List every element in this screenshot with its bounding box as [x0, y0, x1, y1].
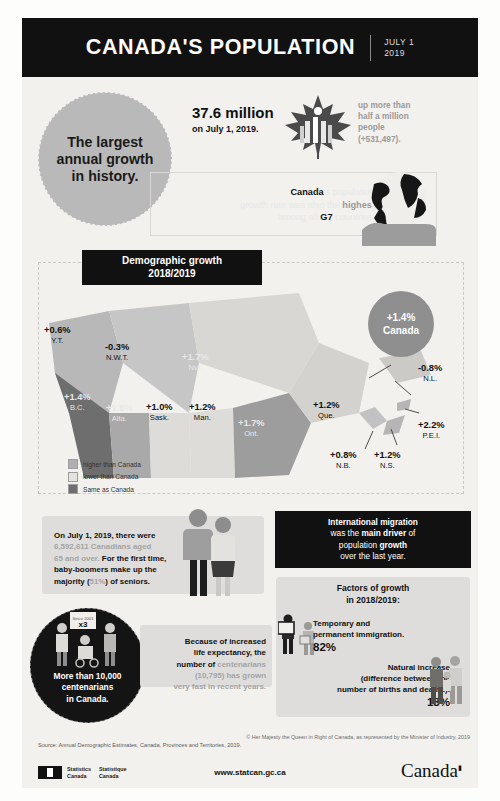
- header-divider: [370, 35, 371, 61]
- header-date-line2: 2019: [384, 48, 414, 59]
- uplift-note: up more than half a million people (+531…: [358, 100, 468, 145]
- map-label-nvt: +1.7%Nvt.: [182, 352, 209, 373]
- centbox-l2: life expectancy, the: [194, 648, 266, 657]
- seniors-l5-post: ) of seniors.: [105, 577, 150, 586]
- fact1-l1: Temporary and: [313, 618, 433, 629]
- mig-l1: International migration: [328, 517, 418, 527]
- seniors-l5-pct: 51%: [90, 577, 106, 586]
- factor-immigration: Temporary and permanent immigration. 82%: [313, 618, 433, 653]
- map-title-line2: 2018/2019: [148, 268, 195, 281]
- centbox-l3-gray: centenarians: [217, 660, 266, 669]
- seniors-l1: On July 1, 2019, there were: [54, 531, 155, 540]
- g7-canada-word: Canada: [290, 187, 323, 197]
- wordmark-flag: ▮: [458, 764, 462, 772]
- map-label-nwt: -0.3%N.W.T.: [105, 342, 129, 363]
- cent-l3: in Canada.: [66, 694, 108, 704]
- g7-line2-pre: growth rate was also the: [240, 200, 342, 210]
- legend-item-higher: higher than Canada: [68, 459, 178, 469]
- centenarians-text: Because of increased life expectancy, th…: [148, 636, 266, 692]
- legend-swatch-same: [68, 484, 78, 494]
- mig-l2-bold: main driver: [361, 528, 406, 538]
- factors-title-l1: Factors of growth: [276, 583, 470, 595]
- map-label-nb: +0.8%N.B.: [330, 450, 357, 471]
- g7-line2: growth rate was also the highest: [160, 199, 375, 212]
- maple-leaf-icon: [283, 93, 353, 161]
- mig-l2-post: of: [406, 528, 415, 538]
- map-title-line1: Demographic growth: [122, 255, 222, 268]
- map-region-nb: [359, 407, 387, 429]
- infographic-page: CANADA'S POPULATION JULY 1 2019 The larg…: [0, 0, 500, 801]
- canada-rate-value: +1.4%: [387, 311, 416, 324]
- centenarians-text-box: Because of increased life expectancy, th…: [140, 625, 272, 687]
- uplift-line1: up more than: [358, 100, 468, 111]
- source-text: Source: Annual Demographic Estimates, Ca…: [38, 742, 338, 748]
- legend-label-same: Same as Canada: [83, 486, 134, 493]
- headline-line3: in history.: [57, 168, 154, 185]
- map-label-bc: +1.4%B.C.: [64, 392, 91, 413]
- cent-l2: centenarians: [62, 682, 114, 692]
- map-region-ns: [383, 415, 405, 435]
- legend-label-higher: higher than Canada: [83, 461, 141, 468]
- legend-swatch-higher: [68, 459, 78, 469]
- mig-l2-pre: was the: [331, 528, 362, 538]
- header-date: JULY 1 2019: [384, 37, 414, 59]
- mig-l3-pre: population: [339, 540, 380, 550]
- factors-title-l2: in 2018/2019:: [276, 595, 470, 607]
- centbox-l4: (10,795) has grown: [195, 671, 266, 680]
- centbox-l5: very fast in recent years.: [173, 682, 266, 691]
- map-label-mb: +1.2%Man.: [189, 402, 216, 423]
- legend-item-same: Same as Canada: [68, 484, 178, 494]
- seniors-l3-rest: For the first time,: [100, 554, 167, 563]
- headline-line1: The largest: [57, 134, 154, 151]
- sign-badge-text: x3: [79, 620, 88, 629]
- legend-swatch-lower: [68, 472, 78, 482]
- factors-title: Factors of growth in 2018/2019:: [276, 583, 470, 606]
- fact1-percent: 82%: [313, 642, 433, 653]
- mig-l3-bold: growth: [379, 540, 407, 550]
- map-label-yt: +0.6%Y.T.: [44, 325, 71, 346]
- map-label-qc: +1.2%Que.: [313, 400, 340, 421]
- uplift-line2: half a million: [358, 111, 468, 122]
- canada-wordmark-text: Canada: [401, 760, 458, 781]
- map-region-pei: [397, 399, 411, 411]
- cent-l1: More than 10,000: [54, 671, 122, 681]
- uplift-line3: people: [358, 122, 468, 133]
- map-label-sk: +1.0%Sask.: [146, 402, 173, 423]
- migration-banner-text: International migration was the main dri…: [328, 517, 418, 563]
- g7-line3-pre: among all: [278, 212, 320, 222]
- centbox-l1: Because of increased: [185, 637, 266, 646]
- map-legend: higher than Canada lower than Canada Sam…: [68, 459, 178, 497]
- migration-banner: International migration was the main dri…: [275, 511, 471, 568]
- g7-text: Canada's population growth rate was also…: [160, 186, 375, 224]
- g7-g7-word: G7: [320, 212, 332, 222]
- header-bar: CANADA'S POPULATION JULY 1 2019: [22, 18, 478, 77]
- uplift-line4: (+531,497).: [358, 134, 468, 145]
- centbox-l3-bold: number of: [177, 660, 218, 669]
- family-icon: [425, 653, 473, 705]
- senior-couple-icon: [178, 505, 240, 600]
- fact1-l2: permanent immigration.: [313, 629, 433, 640]
- copyright-text: © Her Majesty the Queen in Right of Cana…: [200, 734, 470, 740]
- legend-item-lower: lower than Canada: [68, 472, 178, 482]
- mig-l4: over the last year.: [340, 551, 406, 561]
- legend-label-lower: lower than Canada: [83, 473, 138, 480]
- centenarians-group-icon: Since 2001 x3: [48, 612, 126, 668]
- g7-line3: among all G7 countries.: [160, 211, 375, 224]
- seniors-l3-gray: 65 and over.: [54, 554, 100, 563]
- seniors-l2: 6,592,611 Canadians aged: [54, 542, 151, 551]
- page-title: CANADA'S POPULATION: [86, 35, 355, 60]
- map-title-banner: Demographic growth 2018/2019: [82, 250, 262, 285]
- seniors-l4: baby-boomers make up the: [54, 565, 157, 574]
- map-label-on: +1.7%Ont.: [238, 418, 265, 439]
- seniors-l5-pre: majority (: [54, 577, 90, 586]
- canada-wordmark: Canada▮: [401, 760, 462, 782]
- centenarians-circle-text: More than 10,000 centenarians in Canada.: [54, 671, 122, 706]
- headline-line2: annual growth: [57, 151, 154, 168]
- g7-line1: Canada's population: [160, 186, 375, 199]
- globe-in-hand-icon: [360, 168, 438, 246]
- header-date-line1: JULY 1: [384, 37, 414, 48]
- map-label-ab: +1.6%Alta.: [106, 403, 133, 424]
- canada-rate-label: Canada: [383, 324, 419, 337]
- canada-rate-badge: +1.4% Canada: [368, 291, 434, 357]
- map-label-ns: +1.2%N.S.: [374, 450, 401, 471]
